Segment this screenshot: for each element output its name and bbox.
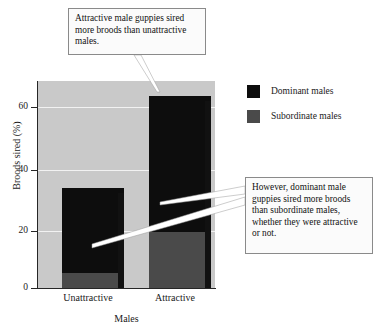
legend-item-subordinate[interactable]: Subordinate males bbox=[247, 109, 341, 123]
bar-segment-subordinate-attractive[interactable] bbox=[149, 232, 205, 288]
x-tick-label-attractive: Attractive bbox=[140, 292, 210, 303]
callout-right-text: However, dominant male guppies sired mor… bbox=[252, 182, 367, 240]
chart-figure: 60 40 20 0 Unattractive Attractive Males… bbox=[0, 0, 373, 329]
legend-swatch-dominant bbox=[247, 85, 260, 98]
y-tick-20 bbox=[31, 231, 37, 232]
x-axis-title: Males bbox=[38, 313, 215, 324]
callout-top-text: Attractive male guppies sired more brood… bbox=[75, 13, 200, 48]
legend: Dominant males Subordinate males bbox=[247, 84, 341, 134]
y-tick-0 bbox=[31, 288, 37, 289]
legend-label-subordinate: Subordinate males bbox=[271, 111, 341, 121]
bar-segment-dominant-attractive[interactable] bbox=[149, 96, 205, 232]
legend-item-dominant[interactable]: Dominant males bbox=[247, 84, 341, 98]
bar-top-face-attractive bbox=[205, 96, 211, 101]
bar-group-attractive bbox=[149, 96, 211, 288]
bar-side-face-attractive bbox=[205, 100, 211, 288]
bar-segment-dominant-unattractive[interactable] bbox=[62, 188, 118, 273]
callout-box-right: However, dominant male guppies sired mor… bbox=[245, 177, 373, 254]
bar-stack-attractive[interactable] bbox=[149, 96, 205, 288]
y-axis-line bbox=[37, 81, 38, 289]
bar-stack-unattractive[interactable] bbox=[62, 188, 118, 288]
y-tick-label-20: 20 bbox=[0, 226, 28, 236]
bar-segment-subordinate-unattractive[interactable] bbox=[62, 273, 118, 288]
plot-area bbox=[38, 81, 215, 288]
y-tick-label-0: 0 bbox=[0, 283, 28, 293]
bar-top-face-unattractive bbox=[118, 188, 124, 193]
legend-label-dominant: Dominant males bbox=[271, 86, 334, 96]
bar-side-face-unattractive bbox=[118, 191, 124, 288]
legend-swatch-subordinate bbox=[247, 110, 260, 123]
callout-box-top: Attractive male guppies sired more brood… bbox=[68, 8, 206, 55]
y-tick-40 bbox=[31, 170, 37, 171]
x-axis-line bbox=[37, 288, 216, 289]
y-axis-title: Broods sired (%) bbox=[11, 91, 22, 221]
x-tick-label-unattractive: Unattractive bbox=[48, 292, 128, 303]
bar-group-unattractive bbox=[62, 188, 124, 288]
y-tick-60 bbox=[31, 107, 37, 108]
